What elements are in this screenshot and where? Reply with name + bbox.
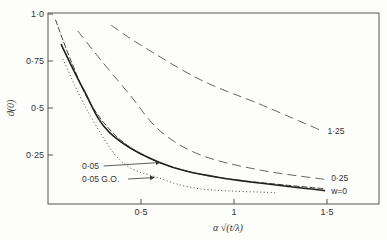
series-line-0-25 [78,31,325,180]
series-line-0-05-g-o- [63,59,275,192]
series-label: w=0 [330,186,347,196]
annotation-arrow [128,178,154,179]
x-axis-title: α √(t/λ) [213,222,243,234]
x-tick-label: 0·5 [134,207,147,217]
x-tick-label: 1·5 [320,207,333,217]
series-label: 0·05 G.O. [82,174,119,184]
series-label: 0·05 [82,161,99,171]
y-tick-label: 0·25 [26,150,44,160]
chart: 0·250·50·751·0 0·511·5 1·250·25w=00·050·… [0,0,387,240]
x-tick-label: 1 [231,207,236,217]
series-line-w-0 [61,44,325,191]
y-tick-label: 0·5 [31,103,44,113]
series-line-1-25 [111,25,321,130]
series-label: 0·25 [331,173,348,183]
y-axis-title: ϑ(0) [5,99,17,116]
y-tick-label: 0·75 [26,56,44,66]
series-label: 1·25 [327,126,344,136]
y-tick-label: 1·0 [31,9,44,19]
annotation-arrow [104,163,160,166]
